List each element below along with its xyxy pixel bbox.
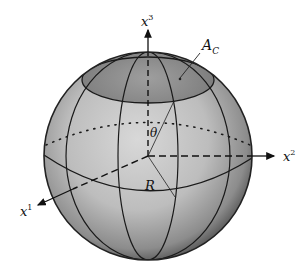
cap-area-label: AC	[200, 37, 219, 56]
cap-pointer-dot	[179, 78, 182, 81]
theta-label: θ	[150, 126, 158, 140]
sphere-diagram: x3 x2 x1 AC θ R	[0, 0, 307, 270]
radius-label: R	[144, 178, 155, 193]
x1-label: x1	[20, 203, 32, 219]
x2-label: x2	[283, 148, 295, 164]
x3-label: x3	[141, 13, 153, 29]
